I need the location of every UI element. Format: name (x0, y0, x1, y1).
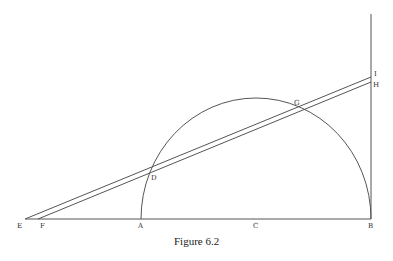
figure-6-2-diagram: E F A C B D G I H Figure 6.2 (0, 0, 393, 261)
label-I: I (374, 70, 377, 78)
label-G: G (294, 99, 300, 107)
figure-caption: Figure 6.2 (174, 235, 219, 247)
label-E: E (17, 222, 22, 230)
label-C: C (253, 222, 258, 230)
label-A: A (137, 222, 144, 230)
label-D: D (151, 174, 157, 182)
label-H: H (373, 81, 379, 89)
label-B: B (368, 222, 373, 230)
line-FH (38, 82, 371, 219)
label-F: F (40, 222, 45, 230)
line-EI (25, 77, 371, 219)
semicircle-AB (141, 98, 371, 219)
